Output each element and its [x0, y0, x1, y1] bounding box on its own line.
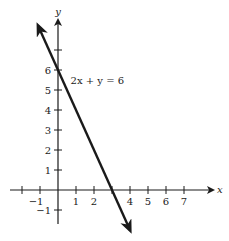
- x-tick-label: 6: [163, 196, 169, 207]
- y-tick-label: 6: [45, 65, 51, 76]
- x-tick-label: 2: [91, 196, 97, 207]
- x-axis-label: x: [217, 184, 223, 195]
- y-tick-label: 5: [45, 85, 51, 96]
- x-tick-label: 5: [145, 196, 151, 207]
- x-tick-label: 1: [73, 196, 79, 207]
- series-line: [38, 26, 130, 230]
- y-tick-label: 1: [45, 165, 51, 176]
- y-tick-label: 2: [45, 145, 51, 156]
- x-tick-label: 7: [181, 196, 187, 207]
- y-tick-label: 3: [45, 125, 51, 136]
- equation-annotation: 2x + y = 6: [71, 75, 125, 86]
- y-tick-label: −1: [36, 205, 51, 216]
- y-axis-label: y: [54, 6, 61, 17]
- x-tick-label: 4: [127, 196, 133, 207]
- y-tick-label: 4: [45, 105, 51, 116]
- chart: −1124567 −1123456 x y 2x + y = 6: [0, 0, 229, 241]
